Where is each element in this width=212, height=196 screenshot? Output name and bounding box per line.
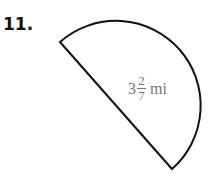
semicircle-figure xyxy=(0,0,212,196)
label-fraction: 2 7 xyxy=(137,75,146,102)
label-denominator: 7 xyxy=(138,90,145,102)
label-whole: 3 xyxy=(128,80,136,98)
label-numerator: 2 xyxy=(138,75,145,87)
label-unit: mi xyxy=(150,80,167,98)
diameter-label: 3 2 7 mi xyxy=(128,75,167,102)
